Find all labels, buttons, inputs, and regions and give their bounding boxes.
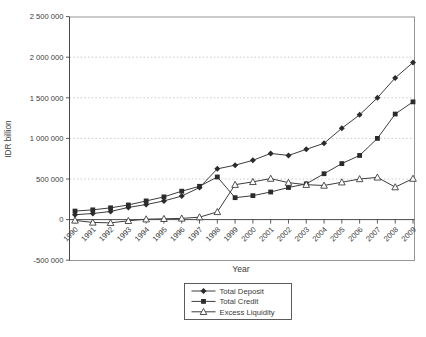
y-tick-label: -500 000 xyxy=(34,256,64,265)
legend-label-total-deposit: Total Deposit xyxy=(220,287,265,296)
x-tick-label: 2009 xyxy=(400,225,418,243)
y-tick-label: 1 000 000 xyxy=(30,134,64,143)
total-credit-point-square-icon xyxy=(215,175,220,180)
total-deposit-point-diamond-icon xyxy=(179,193,185,199)
x-tick-label: 2000 xyxy=(239,225,257,243)
x-tick-label: 2002 xyxy=(275,225,293,243)
excess-liquidity-point-triangle-icon xyxy=(267,175,274,181)
legend-label-excess-liquidity: Excess Liquidity xyxy=(220,308,275,317)
y-tick-label: 0 xyxy=(59,215,63,224)
x-tick-label: 1991 xyxy=(79,225,97,243)
x-tick-label: 2006 xyxy=(346,225,364,243)
total-credit-point-square-icon xyxy=(375,136,380,141)
legend-total-credit-square-icon xyxy=(201,299,206,304)
total-credit-point-square-icon xyxy=(339,161,344,166)
total-credit-point-square-icon xyxy=(73,209,78,214)
x-tick-label: 1990 xyxy=(62,225,80,243)
x-tick-label: 2007 xyxy=(364,225,382,243)
y-tick-label: 2 000 000 xyxy=(30,53,64,62)
x-tick-label: 1992 xyxy=(97,225,115,243)
total-deposit-point-diamond-icon xyxy=(250,157,256,163)
total-credit-point-square-icon xyxy=(286,185,291,190)
x-tick-label: 2004 xyxy=(311,225,329,243)
y-tick-label: 2 500 000 xyxy=(30,12,64,21)
total-credit-point-square-icon xyxy=(250,193,255,198)
y-tick-label: 500 000 xyxy=(36,175,63,184)
total-credit-point-square-icon xyxy=(108,205,113,210)
total-credit-point-square-icon xyxy=(179,189,184,194)
total-credit-point-square-icon xyxy=(322,171,327,176)
x-tick-label: 1998 xyxy=(204,225,222,243)
total-deposit-point-diamond-icon xyxy=(232,162,238,168)
x-tick-label: 1999 xyxy=(222,225,240,243)
total-credit-point-square-icon xyxy=(268,190,273,195)
x-axis-title: Year xyxy=(232,264,250,274)
total-credit-point-square-icon xyxy=(357,153,362,158)
chart-figure: 2 500 0002 000 0001 500 0001 000 000500 … xyxy=(0,0,426,337)
excess-liquidity-point-triangle-icon xyxy=(374,174,381,180)
series-line-excess-liquidity xyxy=(75,177,413,222)
x-tick-label: 2003 xyxy=(293,225,311,243)
x-tick-label: 2008 xyxy=(382,225,400,243)
total-credit-point-square-icon xyxy=(411,99,416,104)
x-tick-label: 1996 xyxy=(168,225,186,243)
x-tick-label: 2001 xyxy=(257,225,275,243)
excess-liquidity-point-triangle-icon xyxy=(410,175,417,181)
total-deposit-point-diamond-icon xyxy=(285,152,291,158)
legend-label-total-credit: Total Credit xyxy=(220,297,260,306)
total-credit-point-square-icon xyxy=(90,207,95,212)
x-tick-label: 1993 xyxy=(115,225,133,243)
excess-liquidity-point-triangle-icon xyxy=(214,208,221,214)
y-axis-title: IDR billion xyxy=(4,120,13,158)
total-deposit-point-diamond-icon xyxy=(303,146,309,152)
total-credit-point-square-icon xyxy=(162,194,167,199)
total-deposit-point-diamond-icon xyxy=(268,150,274,156)
total-credit-point-square-icon xyxy=(144,199,149,204)
total-credit-point-square-icon xyxy=(197,184,202,189)
x-tick-label: 1997 xyxy=(186,225,204,243)
x-tick-label: 1995 xyxy=(151,225,169,243)
series-line-total-credit xyxy=(75,102,413,211)
y-tick-label: 1 500 000 xyxy=(30,94,64,103)
excess-liquidity-point-triangle-icon xyxy=(392,184,399,190)
total-credit-point-square-icon xyxy=(126,203,131,208)
chart-canvas: 2 500 0002 000 0001 500 0001 000 000500 … xyxy=(0,0,426,337)
x-tick-label: 2005 xyxy=(328,225,346,243)
x-tick-label: 1994 xyxy=(133,225,151,243)
total-credit-point-square-icon xyxy=(233,195,238,200)
total-credit-point-square-icon xyxy=(393,112,398,117)
